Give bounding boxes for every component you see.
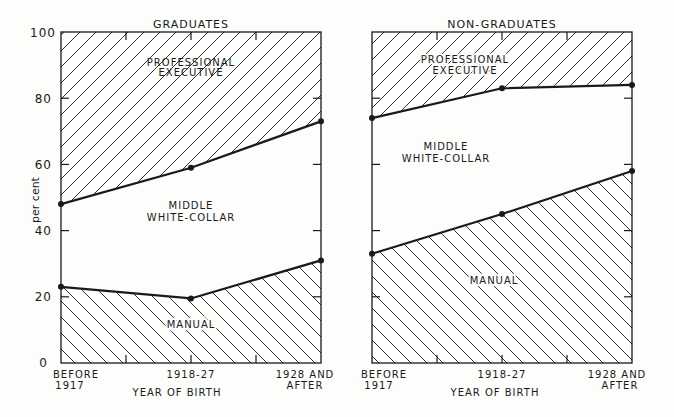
panel-title: GRADUATES xyxy=(153,18,229,31)
xtick-label: AFTER xyxy=(602,380,639,391)
data-point xyxy=(499,85,505,91)
data-point xyxy=(369,115,375,121)
xtick-label: AFTER xyxy=(287,380,324,391)
label-middle: MIDDLE xyxy=(169,200,214,211)
x-axis-title: YEAR OF BIRTH xyxy=(132,387,222,398)
xtick-label: 1917 xyxy=(364,380,393,391)
xtick-label: BEFORE xyxy=(53,369,99,380)
label-white-collar: WHITE-COLLAR xyxy=(402,153,490,164)
panel-graduates: GRADUATES 0 20 40 60 80 100 per cent PRO… xyxy=(29,18,334,398)
y-axis-title: per cent xyxy=(29,176,42,223)
data-point xyxy=(318,118,324,124)
ytick-label: 80 xyxy=(35,92,52,106)
ytick-label: 60 xyxy=(35,158,52,172)
data-point xyxy=(188,165,194,171)
ytick-label: 20 xyxy=(35,290,52,304)
label-manual: MANUAL xyxy=(470,275,519,286)
x-axis-title: YEAR OF BIRTH xyxy=(450,387,540,398)
xtick-label: BEFORE xyxy=(361,369,407,380)
data-point xyxy=(318,257,324,263)
label-middle: MIDDLE xyxy=(424,141,469,152)
data-point xyxy=(58,201,64,207)
label-executive: EXECUTIVE xyxy=(158,67,223,78)
ytick-label: 100 xyxy=(30,26,56,40)
xtick-label: 1918-27 xyxy=(167,369,216,380)
panel-title: NON-GRADUATES xyxy=(447,18,557,31)
xtick-label: 1928 AND xyxy=(588,369,647,380)
label-executive: EXECUTIVE xyxy=(432,65,497,76)
ytick-label: 0 xyxy=(39,356,48,370)
label-white-collar: WHITE-COLLAR xyxy=(147,212,235,223)
area-manual xyxy=(372,171,632,363)
xtick-label: 1917 xyxy=(55,380,84,391)
area-professional-executive xyxy=(372,32,632,118)
xtick-label: 1928 AND xyxy=(276,369,335,380)
label-professional: PROFESSIONAL xyxy=(421,54,509,65)
panel-non-graduates: NON-GRADUATES PROFESSIONAL EXECUTIVE MID… xyxy=(361,18,646,398)
area-manual xyxy=(61,260,321,363)
label-manual: MANUAL xyxy=(167,319,216,330)
data-point xyxy=(58,284,64,290)
data-point xyxy=(629,168,635,174)
chart-canvas: GRADUATES 0 20 40 60 80 100 per cent PRO… xyxy=(0,0,674,417)
data-point xyxy=(188,295,194,301)
xtick-label: 1918-27 xyxy=(478,369,527,380)
data-point xyxy=(629,82,635,88)
ytick-label: 40 xyxy=(35,224,52,238)
data-point xyxy=(499,211,505,217)
data-point xyxy=(369,251,375,257)
